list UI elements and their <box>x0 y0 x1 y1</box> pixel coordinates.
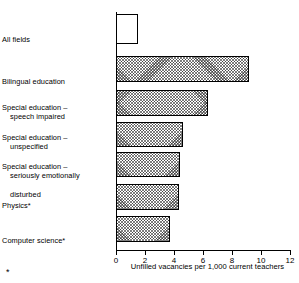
x-tick-8 <box>232 251 233 255</box>
bar-bilingual-education <box>116 56 249 82</box>
x-axis-title: Unfilled vacancies per 1,000 current tea… <box>116 262 299 272</box>
x-tick-10 <box>261 251 262 255</box>
category-label-line-1: Special education – <box>2 162 67 171</box>
category-label-line-1: Special education – <box>2 133 67 142</box>
x-tick-4 <box>174 251 175 255</box>
bar-all-fields <box>116 14 138 44</box>
bar-chart: All fields Bilingual education Special e… <box>0 0 299 283</box>
category-label-line-1: All fields <box>2 35 30 44</box>
category-label-all-fields: All fields <box>2 26 106 44</box>
category-label-line-1: Bilingual education <box>2 77 65 86</box>
category-label-column: All fields Bilingual education Special e… <box>0 12 110 246</box>
category-label-line-2: seriously emotionally <box>2 171 106 180</box>
x-tick-2 <box>145 251 146 255</box>
category-label-line-1: Computer science* <box>2 236 65 245</box>
category-label-line-1: Special education – <box>2 103 67 112</box>
x-tick-0 <box>116 251 117 255</box>
category-label-line-2: unspecified <box>2 142 106 151</box>
category-label-line-2: speech impaired <box>2 112 106 121</box>
bar-special-education-speech-impaired <box>116 90 208 116</box>
category-label-computer-science: Computer science* <box>2 227 106 245</box>
category-label-bilingual-education: Bilingual education <box>2 68 106 86</box>
bar-special-education-seriously-emotionally-disturbed <box>116 152 180 177</box>
category-label-physics: Physics* <box>2 192 106 210</box>
plot-area: 0 2 4 6 8 10 12 <box>116 12 290 246</box>
bar-computer-science <box>116 216 170 242</box>
bar-special-education-unspecified <box>116 122 183 147</box>
footnote-asterisk: * <box>6 268 10 277</box>
bar-physics <box>116 184 179 210</box>
x-tick-12 <box>290 251 291 255</box>
category-label-line-1: Physics* <box>2 201 31 210</box>
x-tick-6 <box>203 251 204 255</box>
